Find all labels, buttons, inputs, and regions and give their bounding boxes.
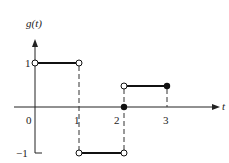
open-point-0-1 xyxy=(32,60,38,66)
open-point-1-neg1 xyxy=(76,150,82,156)
open-point-2-neg1 xyxy=(121,150,127,156)
x-tick-label-0: 0 xyxy=(26,114,32,126)
piecewise-signal-plot: g(t) t 0 1 2 3 1 −1 xyxy=(0,0,229,163)
open-point-2-half xyxy=(121,83,127,89)
filled-point-2-0 xyxy=(121,104,127,110)
plot-canvas: g(t) t 0 1 2 3 1 −1 xyxy=(0,0,229,163)
y-axis-arrow-icon xyxy=(32,39,38,47)
x-tick-label-1: 1 xyxy=(74,114,80,126)
filled-point-3-half xyxy=(164,83,170,89)
y-axis-label: g(t) xyxy=(26,17,42,30)
x-axis-label: t xyxy=(222,100,226,112)
y-tick-label-minus-1: −1 xyxy=(16,147,28,159)
y-tick-label-1: 1 xyxy=(25,57,31,69)
x-tick-label-2: 2 xyxy=(114,114,120,126)
open-point-1-1 xyxy=(76,60,82,66)
x-tick-label-3: 3 xyxy=(163,114,169,126)
x-axis-arrow-icon xyxy=(212,104,220,110)
